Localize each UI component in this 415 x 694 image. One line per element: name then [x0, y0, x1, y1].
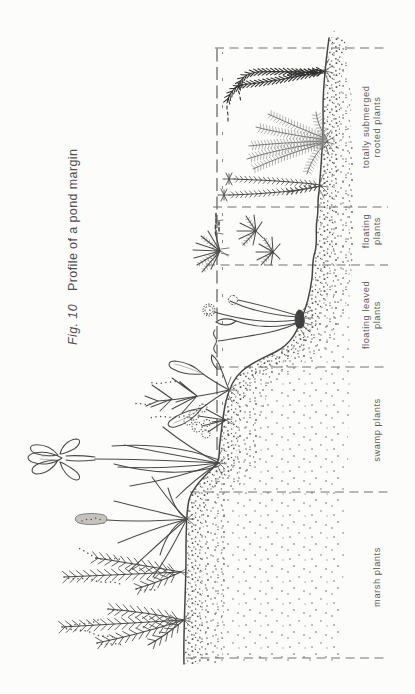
figure-title-text: Profile of a pond margin: [66, 149, 80, 291]
marsh-spike-plant-left: [59, 603, 191, 648]
water-soldier-submerged-rosette-1: [237, 215, 263, 246]
figure-title: Fig. 10Profile of a pond margin: [66, 149, 80, 345]
zone-label-totally-submerged: totally submerged rooted plants: [361, 86, 383, 169]
figure-number: Fig. 10: [66, 304, 80, 345]
zone-label-floating-leaved: floating leaved plants: [361, 281, 383, 349]
elodea-plant: [218, 173, 328, 201]
zone-label-marsh: marsh plants: [372, 547, 383, 607]
water-soldier-submerged-rosette-2: [256, 237, 280, 265]
water-soldier-surface-rosette: [193, 231, 229, 272]
zone-label-swamp: swamp plants: [372, 398, 383, 461]
water-plantain-plant: [134, 355, 236, 427]
hornwort-plant: [224, 59, 333, 121]
pond-margin-figure: Fig. 10Profile of a pond margin marsh pl…: [0, 12, 400, 672]
soil-stipple: [184, 28, 357, 664]
pond-profile-drawing: [0, 12, 400, 672]
page: Fig. 10Profile of a pond margin marsh pl…: [0, 0, 415, 694]
zone-label-floating: floating plants: [361, 214, 383, 248]
marsh-spike-plant-right: [63, 548, 189, 594]
